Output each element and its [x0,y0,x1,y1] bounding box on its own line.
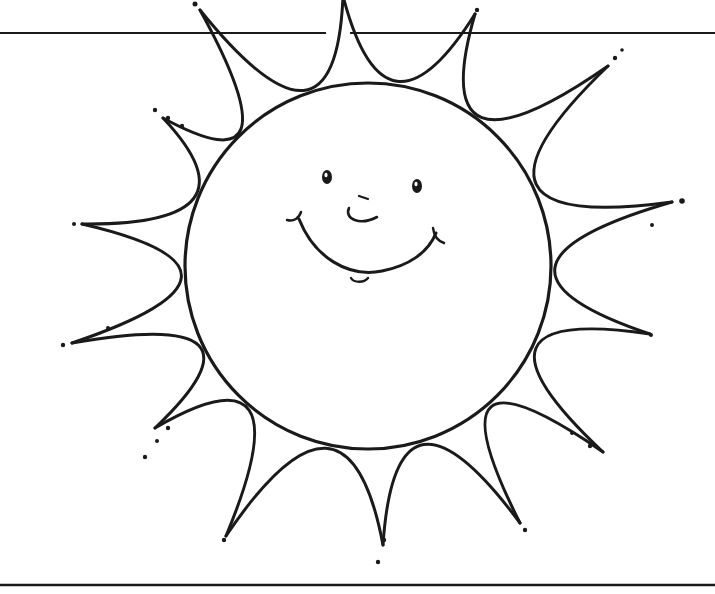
coloring-page: Smiling sun coloring page [0,0,715,594]
sun-disc [185,83,551,449]
ray-dot [155,439,159,443]
sun-circle [185,83,551,449]
ray-scallop [82,118,199,224]
ray-dot [523,528,527,532]
left-eye [322,170,332,184]
ray-dot [143,455,147,459]
ray-dot [61,343,65,347]
ray-dot [613,56,617,60]
ray-scallop [534,66,672,207]
right-eye-highlight [414,182,417,186]
right-eye [412,179,422,193]
ray-dot [570,431,574,435]
ray-dot [649,333,653,337]
ray-dot [166,116,170,120]
ray-dot [382,538,386,542]
ray-dot [166,426,170,430]
ray-scallop [555,202,672,334]
ray-scallop [200,0,343,91]
ray-dot [679,198,685,204]
ray-scallop [485,403,603,523]
ray-scallop [72,224,181,343]
ray-dot [222,538,226,542]
ray-dot [180,124,184,128]
ray-scallop [383,444,520,545]
ray-dot [620,48,624,52]
ray-dot [376,560,380,564]
ray-dot [72,222,76,226]
ray-dot [588,444,592,448]
sun-illustration [0,0,715,594]
ray-scallop [343,0,475,82]
ray-scallop [163,10,243,140]
ray-dot [193,2,198,7]
ray-dot [650,223,654,227]
left-eye-highlight [324,173,327,177]
ray-scallop [534,329,650,452]
ray-scallop [463,14,608,120]
ray-dot [106,326,110,330]
ray-dot [153,108,157,112]
ray-dot [475,8,479,12]
